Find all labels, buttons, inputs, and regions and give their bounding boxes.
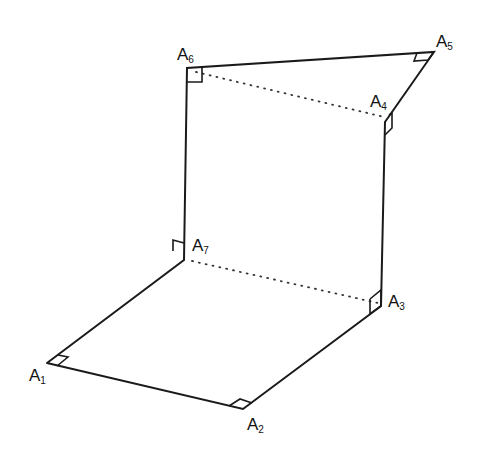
right-angle-mark-a1 bbox=[57, 355, 68, 366]
dotted-edge-a7-a3 bbox=[192, 261, 378, 303]
right-angle-mark-a6 bbox=[187, 67, 202, 82]
label-a4: A4 bbox=[370, 93, 387, 112]
right-angle-mark-a7 bbox=[173, 240, 184, 251]
label-a2: A2 bbox=[247, 416, 264, 435]
label-a1: A1 bbox=[29, 367, 46, 386]
label-a6: A6 bbox=[177, 46, 194, 65]
label-a7: A7 bbox=[192, 237, 209, 256]
label-a3: A3 bbox=[388, 293, 405, 312]
dotted-edge-a6-a4 bbox=[196, 72, 384, 117]
label-a5: A5 bbox=[436, 33, 453, 52]
right-angle-mark-a5 bbox=[414, 53, 433, 61]
folded-polygon-diagram bbox=[0, 0, 484, 451]
right-angle-mark-a3 bbox=[370, 290, 381, 314]
